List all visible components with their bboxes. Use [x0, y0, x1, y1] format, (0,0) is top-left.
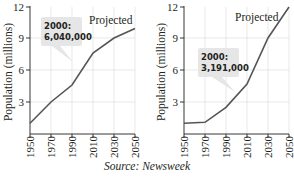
- left-y-axis-title: Population (millions): [2, 23, 15, 121]
- right-xtick-1990: 1990: [220, 136, 232, 159]
- right-xtick-2030: 2030: [262, 136, 274, 159]
- right-ytick-3: 3: [173, 96, 179, 108]
- right-y-axis-title: Population (millions): [155, 23, 168, 121]
- left-xtick-2010: 2010: [87, 136, 99, 159]
- left-ytick-3: 3: [19, 96, 25, 108]
- right-ytick-9: 9: [173, 32, 179, 44]
- left-xtick-1990: 1990: [66, 136, 78, 159]
- left-callout: 2000: 6,040,000: [41, 17, 92, 62]
- left-xtick-1950: 1950: [24, 136, 36, 159]
- left-chart: 12 9 6 3 Population (millions) 1950 1970…: [2, 1, 141, 158]
- left-callout-year: 2000:: [44, 21, 71, 31]
- right-ytick-12: 12: [167, 1, 178, 13]
- left-ytick-12: 12: [13, 1, 24, 13]
- source-caption: Source: Newsweek: [0, 160, 294, 172]
- right-ytick-6: 6: [173, 64, 179, 76]
- right-callout-value: 3,191,000: [201, 63, 249, 73]
- right-callout-year: 2000:: [201, 52, 228, 62]
- left-ytick-9: 9: [19, 32, 25, 44]
- left-ytick-6: 6: [19, 64, 25, 76]
- left-xtick-2050: 2050: [129, 136, 141, 159]
- right-xtick-1950: 1950: [178, 136, 190, 159]
- left-xtick-1970: 1970: [45, 136, 57, 159]
- right-chart: 12 9 6 3 Population (millions) 1950 1970…: [155, 1, 294, 158]
- charts-canvas: 12 9 6 3 Population (millions) 1950 1970…: [0, 0, 294, 179]
- left-xtick-2030: 2030: [108, 136, 120, 159]
- right-xtick-2010: 2010: [241, 136, 253, 159]
- left-projected-label: Projected: [89, 14, 133, 27]
- right-xtick-1970: 1970: [199, 136, 211, 159]
- left-callout-value: 6,040,000: [44, 32, 92, 42]
- right-xtick-2050: 2050: [283, 136, 294, 159]
- right-callout: 2000: 3,191,000: [198, 48, 249, 92]
- right-projected-label: Projected: [235, 11, 279, 24]
